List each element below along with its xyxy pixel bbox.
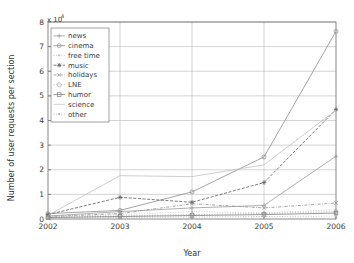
- y-tick-label: 3: [39, 141, 44, 150]
- star-marker: [57, 63, 61, 67]
- legend-label: other: [68, 111, 87, 119]
- y-axis-exponent-power: 4: [61, 13, 64, 19]
- legend-label: music: [68, 62, 89, 70]
- star-marker: [262, 180, 266, 184]
- x-tick-label: 2005: [254, 222, 273, 231]
- legend-label: cinema: [68, 42, 94, 50]
- chart-figure: 012345678 20022003200420052006 x 10 4 Nu…: [0, 0, 354, 263]
- line-chart: 012345678 20022003200420052006 x 10 4 Nu…: [0, 0, 354, 263]
- x-tick-label: 2006: [326, 222, 345, 231]
- dot-marker: [47, 217, 49, 219]
- legend-label: news: [68, 32, 86, 40]
- y-tick-label: 1: [39, 190, 44, 199]
- dot-marker: [119, 216, 121, 218]
- legend-label: science: [68, 101, 94, 109]
- dot-marker: [263, 215, 265, 217]
- legend-label: LNE: [68, 81, 82, 89]
- dot-marker: [191, 216, 193, 218]
- chart-legend[interactable]: newscinemafree timemusicholidaysLNEhumor…: [51, 28, 109, 122]
- legend-label: holidays: [68, 71, 97, 79]
- star-marker: [118, 195, 122, 199]
- y-axis-exponent: x 10: [47, 16, 62, 24]
- dot-marker: [58, 113, 60, 115]
- y-axis-label: Number of user requests per section: [7, 55, 16, 202]
- legend-label: free time: [68, 52, 100, 60]
- y-tick-label: 7: [39, 42, 44, 51]
- y-tick-label: 5: [39, 91, 44, 100]
- x-axis-label: Year: [183, 249, 202, 258]
- y-tick-label: 2: [39, 165, 44, 174]
- x-tick-label: 2004: [182, 222, 201, 231]
- y-tick-label: 4: [39, 116, 44, 125]
- dot-marker: [335, 215, 337, 217]
- y-tick-label: 6: [39, 67, 44, 76]
- x-tick-label: 2002: [38, 222, 57, 231]
- legend-label: humor: [68, 91, 91, 99]
- y-tick-label: 8: [39, 18, 44, 27]
- x-tick-label: 2003: [110, 222, 129, 231]
- dot-marker: [58, 54, 60, 56]
